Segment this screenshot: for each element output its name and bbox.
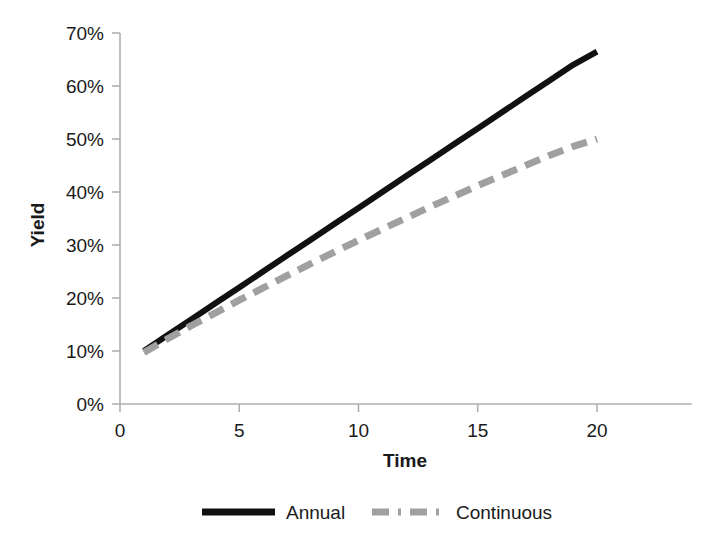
y-tick-label: 10% bbox=[66, 341, 104, 362]
y-tick-label: 50% bbox=[66, 129, 104, 150]
x-tick-label: 15 bbox=[467, 420, 488, 441]
y-axis-title: Yield bbox=[27, 203, 48, 248]
y-tick-label: 20% bbox=[66, 288, 104, 309]
y-tick-label: 30% bbox=[66, 235, 104, 256]
y-tick-label: 70% bbox=[66, 23, 104, 44]
x-tick-label: 10 bbox=[348, 420, 369, 441]
y-tick-label: 40% bbox=[66, 182, 104, 203]
legend-label-annual: Annual bbox=[286, 502, 345, 523]
x-tick-label: 0 bbox=[115, 420, 126, 441]
x-tick-label: 5 bbox=[234, 420, 245, 441]
x-tick-label: 20 bbox=[586, 420, 607, 441]
chart-background bbox=[0, 0, 706, 544]
legend-label-continuous: Continuous bbox=[456, 502, 552, 523]
chart-container: 0%10%20%30%40%50%60%70% 05101520 Yield T… bbox=[0, 0, 706, 544]
y-tick-label: 60% bbox=[66, 76, 104, 97]
y-tick-label: 0% bbox=[77, 394, 105, 415]
yield-vs-time-line-chart: 0%10%20%30%40%50%60%70% 05101520 Yield T… bbox=[0, 0, 706, 544]
x-axis-title: Time bbox=[383, 450, 427, 471]
